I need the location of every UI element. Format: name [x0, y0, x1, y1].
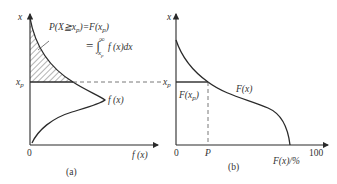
- caption-b: (b): [228, 162, 239, 173]
- origin-label-b: 0: [174, 148, 179, 158]
- cdf-curve: [176, 40, 290, 145]
- panel-b: x xp F(xp) F(x) 0 P 100 F(x)/% (b): [162, 12, 328, 173]
- max-label: 100: [309, 148, 324, 158]
- x-axis-label-a: f (x): [132, 150, 148, 161]
- pdf-curve-label: f (x): [108, 95, 124, 106]
- fxp-label: F(xp): [178, 90, 199, 102]
- xp-label-b: xp: [162, 77, 171, 89]
- panel-a: x xp 0 f (x) f (x) (a) P(X≧xp)=F(xp) = ∫…: [15, 12, 162, 178]
- caption-a: (a): [66, 167, 77, 178]
- origin-label-a: 0: [27, 148, 32, 158]
- integral-upper-limit: ∞: [99, 35, 105, 44]
- x-axis-label-b: F(x)/%: [272, 156, 300, 167]
- exceedance-formula-line1: P(X≧xp)=F(xp): [48, 22, 109, 34]
- integral-lower-limit: xp: [97, 49, 104, 58]
- xp-label-a: xp: [15, 77, 24, 89]
- integrand: f (x)dx: [108, 42, 133, 53]
- exceedance-probability-diagram: x xp 0 f (x) f (x) (a) P(X≧xp)=F(xp) = ∫…: [0, 0, 337, 184]
- y-axis-label-b: x: [166, 12, 172, 22]
- cdf-curve-label: F(x): [235, 84, 252, 95]
- y-axis-label-a: x: [17, 12, 23, 22]
- p-label: P: [204, 148, 211, 158]
